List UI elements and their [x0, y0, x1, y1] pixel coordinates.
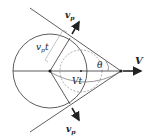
- upper-radius: [50, 38, 70, 71]
- apex-dot: [119, 69, 122, 72]
- mid-dot: [80, 70, 82, 72]
- lower-vp-label: vp: [66, 124, 76, 136]
- upper-cone-line: [30, 8, 121, 71]
- vt-label: Vt: [72, 76, 82, 86]
- vpt-label: vpt: [36, 42, 49, 54]
- velocity-label: V: [135, 55, 144, 66]
- theta-label: θ: [97, 60, 103, 70]
- upper-vp-label: vp: [65, 10, 75, 22]
- lower-vp-arrow: [72, 108, 79, 120]
- upper-vp-arrow: [72, 22, 79, 34]
- source-origin-dot: [48, 69, 51, 72]
- mach-cone-diagram: V Vt θ vpt vp vp: [0, 0, 158, 138]
- lower-radius: [50, 71, 70, 104]
- vt-arc: [50, 72, 120, 82]
